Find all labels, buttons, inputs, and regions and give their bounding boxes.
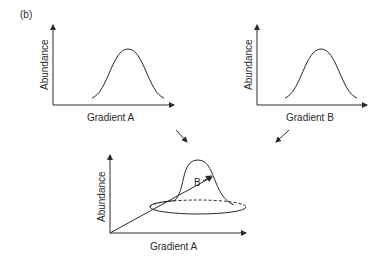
plot-gradient-b: Abundance Gradient B <box>243 25 367 123</box>
ellipse-front <box>150 207 246 214</box>
abundance-curve <box>285 49 357 98</box>
diagram-canvas: (b) Abundance Gradient A Abundance Gradi… <box>0 0 381 260</box>
arrow-down-right-icon <box>176 130 187 142</box>
x-axis-label: Gradient A <box>87 112 135 123</box>
y-axis-label: Abundance <box>39 39 50 90</box>
abundance-curve <box>92 49 164 98</box>
arrow-down-left-icon <box>276 130 289 142</box>
x-axis-label: Gradient A <box>150 241 198 252</box>
depth-axis-label: B <box>194 177 201 188</box>
y-axis-label: Abundance <box>243 39 254 90</box>
plot-combined: B Abundance Gradient A <box>96 155 246 252</box>
abundance-surface <box>174 160 234 205</box>
panel-label: (b) <box>20 9 32 20</box>
y-axis-label: Abundance <box>96 171 107 222</box>
x-axis-label: Gradient B <box>286 112 334 123</box>
plot-gradient-a: Abundance Gradient A <box>39 25 174 123</box>
